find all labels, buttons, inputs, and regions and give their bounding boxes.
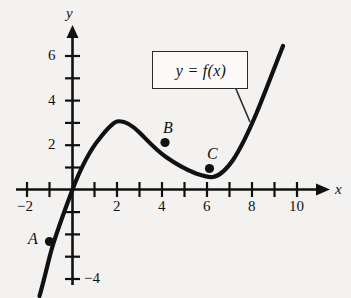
x-tick-label-4: 4 [158, 199, 166, 214]
curve-label-box: y = f(x) [152, 51, 248, 89]
point-label-B: B [163, 120, 173, 136]
x-tick-label-8: 8 [248, 199, 256, 214]
point-label-C: C [207, 146, 218, 162]
y-tick-label-4: 4 [48, 93, 56, 108]
y-tick-label-6: 6 [48, 48, 56, 63]
x-axis-label: x [335, 182, 342, 197]
function-graph-figure: y = f(x) x y −2 2 4 6 8 10 6 4 2 −4 A B … [0, 0, 351, 298]
y-tick-label--4: −4 [84, 271, 100, 286]
x-tick-label-6: 6 [203, 199, 211, 214]
curve-label-text: y = f(x) [153, 52, 249, 90]
y-axis-label: y [66, 6, 73, 21]
x-tick-label--2: −2 [17, 199, 33, 214]
callout-leader-line [236, 89, 250, 122]
point-label-A: A [28, 231, 38, 247]
x-axis [16, 182, 330, 197]
point-marker-C [205, 164, 214, 173]
y-tick-label-2: 2 [48, 137, 56, 152]
x-tick-label-10: 10 [289, 199, 304, 214]
point-marker-A [45, 237, 54, 246]
point-marker-B [160, 138, 169, 147]
x-tick-label-2: 2 [113, 199, 121, 214]
y-axis [65, 25, 80, 285]
